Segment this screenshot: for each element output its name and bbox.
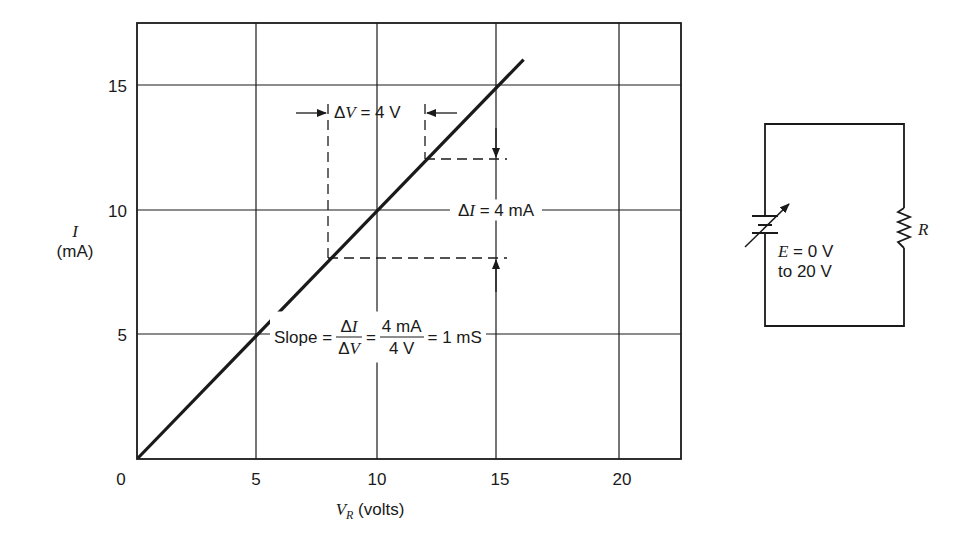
source-label: E = 0 V to 20 V bbox=[778, 242, 833, 283]
plot-frame bbox=[137, 23, 681, 459]
y-axis-label: I (mA) bbox=[40, 222, 110, 261]
frac1-num-var: I bbox=[352, 317, 358, 336]
frac1-den-var: V bbox=[350, 339, 360, 358]
x-tick-label-10: 10 bbox=[368, 471, 387, 488]
y-tick-label-10: 10 bbox=[108, 203, 127, 220]
y-axis-label-var: I bbox=[72, 222, 78, 241]
data-series-line bbox=[138, 60, 524, 458]
x-axis-label: VR (volts) bbox=[336, 501, 405, 521]
slope-annotation: Slope = ΔI ΔV = 4 mA 4 V = 1 mS bbox=[270, 312, 486, 363]
y-tick-label-5: 5 bbox=[118, 327, 127, 344]
slope-result: = 1 mS bbox=[428, 329, 482, 346]
delta-i-sym: Δ bbox=[458, 201, 469, 220]
x-tick-label-20: 20 bbox=[613, 471, 632, 488]
source-line1: = 0 V bbox=[788, 242, 833, 261]
slope-fraction-symbolic: ΔI ΔV bbox=[336, 318, 362, 357]
frac1-num-sym: Δ bbox=[341, 317, 352, 336]
variable-battery-icon bbox=[745, 204, 789, 247]
source-line2: to 20 V bbox=[778, 262, 832, 281]
slope-eq1: = bbox=[366, 329, 376, 346]
frac1-den-sym: Δ bbox=[338, 339, 349, 358]
x-axis-label-unit: (volts) bbox=[358, 500, 404, 519]
x-tick-label-15: 15 bbox=[491, 471, 510, 488]
x-tick-label-0: 0 bbox=[116, 471, 125, 488]
source-var: E bbox=[778, 242, 788, 261]
delta-v-rest: = 4 V bbox=[356, 103, 401, 122]
slope-fraction-numeric: 4 mA 4 V bbox=[380, 318, 424, 357]
delta-v-var: V bbox=[345, 103, 355, 122]
frac2-den: 4 V bbox=[380, 338, 424, 357]
delta-i-annotation: ΔI = 4 mA bbox=[450, 200, 542, 221]
grid-lines bbox=[137, 23, 681, 459]
x-tick-label-5: 5 bbox=[251, 471, 260, 488]
y-tick-label-15: 15 bbox=[108, 78, 127, 95]
y-axis-label-unit: (mA) bbox=[57, 242, 94, 261]
slope-prefix: Slope = bbox=[274, 329, 332, 346]
delta-v-annotation: ΔV = 4 V bbox=[334, 104, 401, 121]
x-axis-label-var: V bbox=[336, 500, 346, 519]
circuit-diagram bbox=[745, 124, 910, 326]
frac2-num: 4 mA bbox=[380, 318, 424, 338]
figure: 15 10 5 0 5 10 15 20 I (mA) VR (volts) Δ… bbox=[0, 0, 971, 536]
delta-v-sym: Δ bbox=[334, 103, 345, 122]
resistor-label: R bbox=[918, 221, 928, 238]
resistor-icon bbox=[898, 208, 910, 248]
x-axis-label-sub: R bbox=[346, 508, 353, 522]
circuit-wire bbox=[765, 124, 904, 208]
delta-i-rest: = 4 mA bbox=[475, 201, 534, 220]
